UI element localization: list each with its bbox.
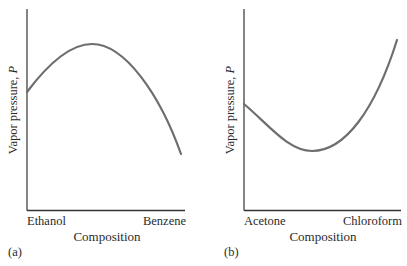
chart-b: Acetone Chloroform Composition Vapor pre…	[223, 9, 402, 259]
x-tick-label-benzene: Benzene	[143, 214, 186, 228]
x-tick-label-acetone: Acetone	[244, 214, 286, 228]
figure: Ethanol Benzene Composition Vapor pressu…	[0, 0, 407, 266]
x-tick-label-ethanol: Ethanol	[27, 214, 66, 228]
x-axis-label-a: Composition	[73, 229, 141, 244]
panel-label-a: (a)	[8, 245, 22, 259]
x-tick-label-chloroform: Chloroform	[343, 214, 402, 228]
panel-label-b: (b)	[224, 245, 239, 259]
chart-a: Ethanol Benzene Composition Vapor pressu…	[6, 9, 186, 259]
y-axis-label-a: Vapor pressure, P	[6, 65, 20, 154]
vapor-pressure-curve-b	[244, 40, 397, 151]
y-axis-label-b: Vapor pressure, P	[223, 65, 237, 154]
x-axis-label-b: Composition	[289, 229, 357, 244]
vapor-pressure-curve-a	[27, 44, 181, 154]
